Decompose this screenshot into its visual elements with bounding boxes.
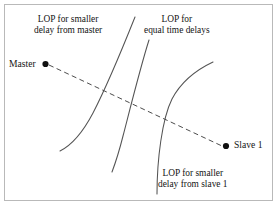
master-node-label: Master: [9, 58, 36, 69]
baseline-dashed-line: [49, 65, 222, 146]
annotation-line-2: delay from slave 1: [158, 179, 228, 190]
master-point-icon: [42, 61, 48, 67]
annotation-lop-equal-time-delays: LOP for equal time delays: [144, 14, 210, 36]
diagram-figure: LOP for smaller delay from master LOP fo…: [0, 0, 278, 206]
slave1-point-icon: [223, 143, 229, 149]
annotation-line-1: LOP for smaller: [158, 168, 228, 179]
annotation-lop-smaller-delay-master: LOP for smaller delay from master: [34, 14, 102, 36]
annotation-line-1: LOP for: [144, 14, 210, 25]
annotation-lop-smaller-delay-slave: LOP for smaller delay from slave 1: [158, 168, 228, 190]
annotation-line-2: delay from master: [34, 25, 102, 36]
slave1-node-label: Slave 1: [234, 139, 263, 150]
annotation-line-1: LOP for smaller: [34, 14, 102, 25]
lop-curve-smaller-delay-master: [60, 17, 135, 151]
annotation-line-2: equal time delays: [144, 25, 210, 36]
